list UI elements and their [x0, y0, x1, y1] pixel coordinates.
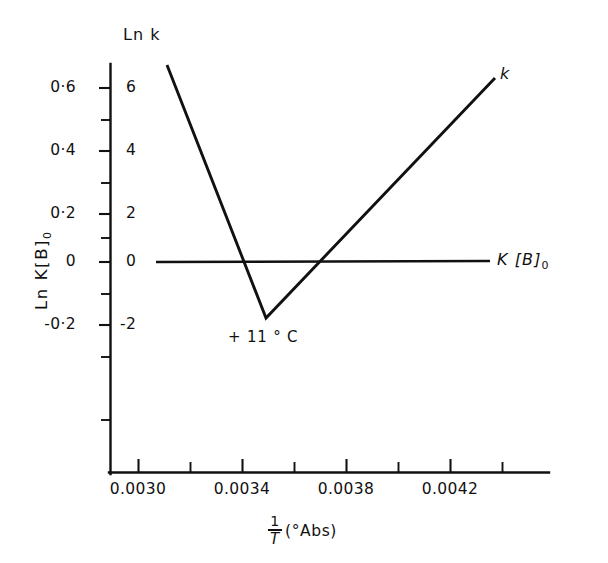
y-axis-title-left-text: Ln K[B]	[32, 239, 51, 310]
plot-canvas	[0, 0, 608, 563]
x-axis-ticks	[139, 459, 503, 473]
x-axis-title-fraction: 1 T	[268, 514, 282, 547]
y-tick-label-left-0: 0·6	[14, 80, 76, 96]
y-tick-label-right-2: 2	[126, 206, 136, 222]
y-axis-title-right: Ln k	[123, 27, 160, 43]
y-tick-label-left-1: 0·4	[14, 143, 76, 159]
y-tick-label-left-3: 0	[14, 254, 76, 270]
annotation-vertex-temperature: + 11 ° C	[228, 330, 298, 345]
x-tick-label-0: 0.0030	[83, 482, 193, 498]
x-tick-label-3: 0.0042	[395, 482, 505, 498]
series-label-kb0: K [B]0	[497, 252, 549, 271]
series-label-k: k	[500, 66, 510, 82]
x-tick-label-1: 0.0034	[187, 482, 297, 498]
x-axis-title: 1 T (°Abs)	[268, 514, 337, 547]
series-line-k	[167, 65, 495, 318]
series-label-kb0-text: K [B]	[497, 250, 542, 269]
y-tick-label-right-3: 0	[126, 254, 136, 270]
series-line-kb0	[156, 261, 490, 262]
x-axis-title-denominator: T	[270, 531, 280, 547]
series-label-kb0-subscript: 0	[542, 259, 549, 272]
y-tick-label-right-4: -2	[120, 317, 136, 333]
x-tick-label-2: 0.0038	[291, 482, 401, 498]
y-axis-major-ticks	[99, 88, 111, 325]
y-tick-label-right-0: 6	[126, 80, 136, 96]
y-tick-label-left-2: 0·2	[14, 206, 76, 222]
x-axis-title-unit: (°Abs)	[285, 522, 337, 540]
x-axis-title-numerator: 1	[270, 514, 280, 529]
kinetics-figure: Ln k Ln K[B]0 0·6 0·4 0·2 0 -0·2 6 4 2 0…	[0, 0, 608, 563]
y-tick-label-left-4: -0·2	[4, 317, 76, 333]
y-axis-title-left-subscript: 0	[41, 232, 54, 239]
y-tick-label-right-1: 4	[126, 143, 136, 159]
y-axis-title-left: Ln K[B]0	[34, 232, 53, 310]
